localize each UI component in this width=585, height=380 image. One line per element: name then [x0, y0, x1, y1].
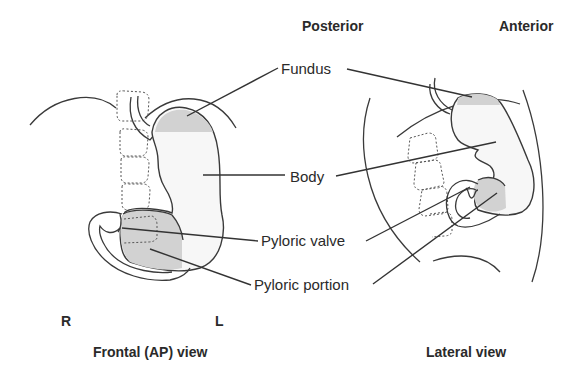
pyloric-portion-label: Pyloric portion [254, 276, 349, 293]
vertebra [414, 160, 444, 190]
fundus-leader-lateral [347, 69, 472, 97]
pyloric-shading-frontal [120, 210, 182, 269]
diaphragm-right-arc [30, 98, 116, 125]
fundus-label: Fundus [281, 60, 331, 77]
lower-arc-lateral [433, 256, 500, 272]
left-side-label: L [215, 313, 224, 329]
frontal-view-drawing [30, 91, 236, 280]
pyloric-portion-leader-lateral [373, 193, 497, 284]
frontal-view-title: Frontal (AP) view [93, 344, 207, 360]
right-side-label: R [61, 313, 71, 329]
vertebra [408, 133, 438, 163]
pyloric-valve-label: Pyloric valve [261, 232, 345, 249]
body-leader-lateral [336, 142, 496, 176]
vertebra [121, 157, 149, 183]
vertebra [117, 91, 149, 121]
posterior-label: Posterior [302, 18, 364, 34]
body-label: Body [290, 168, 325, 185]
anterior-label: Anterior [499, 18, 554, 34]
vertebra [122, 184, 150, 210]
fundus-leader-frontal [187, 68, 278, 116]
lateral-view-title: Lateral view [426, 344, 506, 360]
stomach-anatomy-diagram: Posterior Anterior Fundus Body Pyloric v… [0, 0, 585, 380]
lateral-view-drawing [364, 78, 543, 282]
vertebra [120, 129, 148, 156]
